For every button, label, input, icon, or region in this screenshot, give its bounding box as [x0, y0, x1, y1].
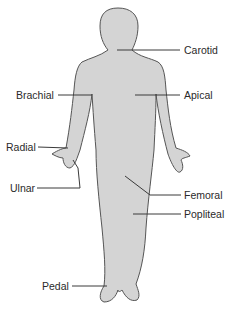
- label-radial: Radial: [6, 141, 36, 153]
- label-popliteal: Popliteal: [184, 208, 224, 220]
- label-ulnar: Ulnar: [10, 182, 35, 194]
- label-apical: Apical: [184, 89, 213, 101]
- label-pedal: Pedal: [42, 280, 69, 292]
- radial-leader: [38, 147, 68, 148]
- label-brachial: Brachial: [16, 89, 54, 101]
- body-silhouette: [52, 8, 190, 302]
- label-carotid: Carotid: [184, 44, 218, 56]
- label-femoral: Femoral: [184, 189, 223, 201]
